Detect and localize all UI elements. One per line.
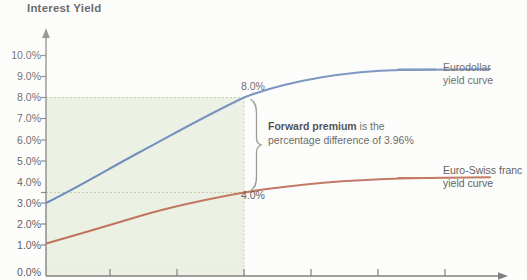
y-tick-label: 7.0% [0,112,41,124]
forward-premium-term: Forward premium [268,120,357,132]
y-tick-label: 9.0% [0,70,41,82]
y-tick-marks [41,56,46,246]
y-tick-label: 1.0% [0,239,41,251]
y-tick-label: 4.0% [0,176,41,188]
legend-label-eurodollar: Eurodollar yield curve [443,61,493,87]
legend-eurodollar-line2: yield curve [443,74,493,86]
legend-euroswiss-line1: Euro-Swiss franc [443,164,522,176]
forward-premium-detail: percentage difference of 3.96% [268,134,414,146]
legend-label-euroswiss: Euro-Swiss franc yield curve [443,164,522,190]
y-tick-label: 5.0% [0,155,41,167]
y-tick-label: 0.0% [0,266,41,278]
forward-premium-brace-icon [251,100,262,191]
eurodollar-point-label: 8.0% [241,80,265,92]
legend-euroswiss-line2: yield curve [443,177,493,189]
y-axis-tick-labels: 10.0% 9.0% 8.0% 7.0% 6.0% 5.0% 4.0% 3.0%… [0,0,41,280]
y-tick-label: 3.0% [0,197,41,209]
y-tick-label: 6.0% [0,134,41,146]
y-tick-label: 8.0% [0,91,41,103]
y-axis-arrow-icon [42,28,50,38]
forward-premium-annotation: Forward premium is the percentage differ… [268,120,468,147]
x-axis-arrow-icon [498,272,508,280]
legend-eurodollar-line1: Eurodollar [443,61,491,73]
forward-premium-tail: is the [357,120,385,132]
euroswiss-point-label: 4.0% [241,189,265,201]
y-tick-label: 2.0% [0,218,41,230]
chart-figure: Interest Yield 10.0% 9.0% 8.0% 7.0% 6.0%… [0,0,527,280]
y-tick-label: 10.0% [0,49,41,61]
